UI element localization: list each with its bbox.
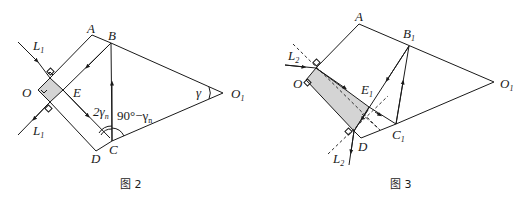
figure-2: A B O E C D O1 L1 L1 2γn 90°−γn γ 图 2 — [18, 21, 244, 191]
edge-A-O1 — [359, 24, 494, 82]
edge-O-D-lower — [50, 102, 96, 151]
label-L1-top: L1 — [32, 38, 44, 55]
label-gamma: γ — [196, 85, 202, 100]
label-angle-90-minus-gamma: 90°−γn — [117, 108, 152, 125]
label-B: B — [108, 28, 116, 43]
label-A: A — [86, 21, 95, 36]
label-L2-top: L2 — [287, 48, 299, 65]
label-E1: E1 — [360, 82, 373, 99]
shaded-region — [38, 78, 63, 102]
edge-O1-C1 — [396, 82, 494, 124]
caption-figure-2: 图 2 — [120, 178, 142, 191]
label-O: O — [22, 85, 32, 100]
label-B1: B1 — [403, 26, 415, 43]
label-L2-bottom: L2 — [332, 151, 344, 168]
figure-3: A B1 O E1 C1 D O1 L2 L2 图 3 — [285, 9, 513, 191]
label-D: D — [357, 139, 368, 154]
label-O: O — [293, 76, 303, 91]
label-angle-2gamma: 2γn — [93, 104, 109, 121]
diagram-canvas: A B O E C D O1 L1 L1 2γn 90°−γn γ 图 2 — [0, 0, 524, 209]
label-E: E — [72, 85, 81, 100]
label-C: C — [109, 142, 118, 157]
label-L1-bottom: L1 — [32, 123, 44, 140]
label-O1: O1 — [231, 86, 244, 103]
label-D: D — [90, 151, 101, 166]
label-O1: O1 — [500, 76, 513, 93]
edge-C1-D — [361, 124, 396, 138]
edge-A-O — [316, 24, 359, 68]
caption-figure-3: 图 3 — [390, 178, 412, 191]
edge-B-O1 — [111, 43, 223, 93]
label-C1: C1 — [392, 127, 405, 144]
label-A: A — [354, 9, 363, 24]
edge-A-O-upper — [50, 35, 92, 78]
